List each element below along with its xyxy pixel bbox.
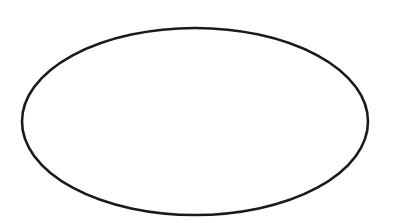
canvas-background xyxy=(0,0,400,223)
diagram-canvas xyxy=(0,0,400,223)
